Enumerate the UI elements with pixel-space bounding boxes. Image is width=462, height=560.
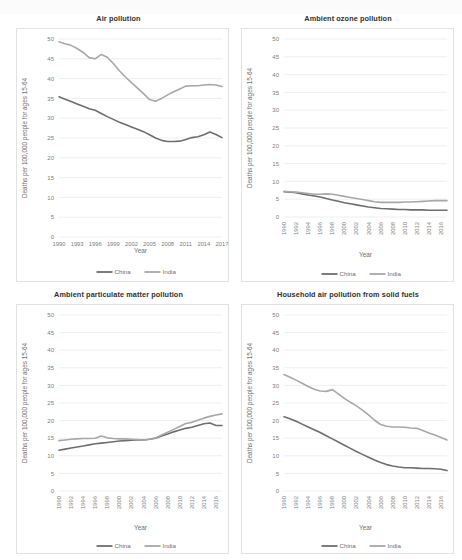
y-tick-label: 20 [272, 143, 279, 149]
series-line-india [284, 374, 447, 439]
x-axis-title: Year [134, 524, 148, 531]
chart-box-1: 05101520253035404550Deaths per 100,000 p… [241, 28, 454, 282]
y-tick-label: 35 [272, 90, 279, 96]
x-tick-label: 1994 [305, 221, 311, 235]
x-tick-label: 2002 [353, 222, 359, 235]
x-axis-title: Year [134, 247, 148, 254]
y-tick-label: 50 [47, 36, 54, 42]
x-tick-label: 2016 [213, 496, 219, 509]
chart-svg-2: 05101520253035404550Deaths per 100,000 p… [17, 305, 230, 555]
panel-household-air-pollution: Household air pollution from solid fuels… [237, 290, 459, 558]
legend-label-china: China [340, 542, 357, 549]
chart-box-0: 05101520253035404550Deaths per 100,000 p… [16, 28, 229, 282]
x-tick-label: 2012 [414, 222, 420, 235]
y-tick-label: 40 [272, 72, 279, 78]
chart-box-3: 05101520253035404550Deaths per 100,000 p… [241, 304, 454, 554]
y-tick-label: 15 [47, 175, 54, 181]
y-tick-label: 30 [272, 383, 279, 389]
y-tick-label: 25 [47, 400, 54, 406]
x-tick-label: 2000 [341, 496, 347, 509]
x-tick-label: 2014 [201, 495, 207, 509]
y-tick-label: 10 [272, 453, 279, 459]
y-tick-label: 5 [276, 196, 280, 202]
x-tick-label: 2004 [366, 221, 372, 235]
x-tick-label: 2008 [390, 222, 396, 235]
x-axis-title: Year [359, 251, 373, 258]
x-tick-label: 2014 [426, 221, 432, 235]
x-tick-label: 2010 [402, 496, 408, 509]
x-tick-label: 2008 [165, 496, 171, 509]
legend-label-china: China [115, 542, 132, 549]
y-tick-label: 35 [47, 365, 54, 371]
chart-svg-3: 05101520253035404550Deaths per 100,000 p… [242, 305, 455, 555]
chart-title-1: Ambient ozone pollution [237, 14, 459, 24]
y-tick-label: 0 [276, 488, 280, 494]
x-tick-label: 2016 [438, 222, 444, 235]
series-line-india [59, 42, 222, 101]
x-tick-label: 2000 [341, 222, 347, 235]
y-axis-title: Deaths per 100,000 people for ages 15-64 [21, 343, 29, 464]
x-tick-label: 2010 [177, 496, 183, 509]
y-tick-label: 45 [272, 330, 279, 336]
y-tick-label: 45 [47, 330, 54, 336]
y-tick-label: 40 [272, 347, 279, 353]
y-tick-label: 15 [47, 435, 54, 441]
y-tick-label: 5 [276, 471, 280, 477]
x-tick-label: 2008 [161, 241, 174, 247]
y-tick-label: 35 [47, 96, 54, 102]
y-tick-label: 40 [47, 347, 54, 353]
legend-label-india: India [388, 542, 402, 549]
x-tick-label: 1992 [293, 222, 299, 235]
y-axis-title: Deaths per 100,000 people for ages 15-64 [246, 343, 254, 464]
y-tick-label: 20 [47, 155, 54, 161]
y-tick-label: 45 [272, 54, 279, 60]
y-tick-label: 50 [272, 36, 279, 42]
chart-title-3: Household air pollution from solid fuels [237, 290, 459, 300]
x-tick-label: 2006 [378, 222, 384, 235]
legend-label-india: India [163, 268, 177, 275]
x-tick-label: 2017 [216, 241, 229, 247]
x-tick-label: 2012 [189, 496, 195, 509]
legend-label-china: China [115, 268, 132, 275]
x-tick-label: 1992 [68, 496, 74, 509]
y-axis-title: Deaths per 100,000 people for ages 15-64 [21, 78, 29, 199]
legend-label-india: India [163, 542, 177, 549]
x-tick-label: 2006 [153, 496, 159, 509]
x-tick-label: 2004 [141, 495, 147, 509]
x-tick-label: 2002 [128, 496, 134, 509]
panel-ambient-ozone-pollution: Ambient ozone pollution 0510152025303540… [237, 14, 459, 286]
x-tick-label: 1994 [80, 495, 86, 509]
x-tick-label: 1990 [53, 241, 66, 247]
y-tick-label: 30 [272, 107, 279, 113]
x-tick-label: 2008 [390, 496, 396, 509]
y-tick-label: 25 [47, 135, 54, 141]
chart-title-2: Ambient particulate matter pollution [6, 290, 231, 300]
x-tick-label: 1993 [71, 241, 84, 247]
x-tick-label: 1996 [92, 496, 98, 509]
series-line-china [59, 423, 222, 450]
chart-title-0: Air pollution [6, 14, 231, 24]
x-tick-label: 1998 [104, 496, 110, 509]
y-tick-label: 40 [47, 76, 54, 82]
series-line-china [59, 97, 222, 142]
x-tick-label: 1990 [281, 496, 287, 509]
legend-label-india: India [388, 270, 402, 277]
y-tick-label: 35 [272, 365, 279, 371]
x-tick-label: 1999 [107, 241, 120, 247]
y-tick-label: 15 [272, 435, 279, 441]
panel-air-pollution: Air pollution 05101520253035404550Deaths… [6, 14, 231, 286]
y-tick-label: 0 [51, 234, 55, 240]
chart-box-2: 05101520253035404550Deaths per 100,000 p… [16, 304, 229, 554]
x-tick-label: 1996 [317, 496, 323, 509]
chart-grid: Air pollution 05101520253035404550Deaths… [0, 0, 462, 560]
x-tick-label: 2004 [366, 495, 372, 509]
series-line-india [284, 191, 447, 202]
y-tick-label: 15 [272, 161, 279, 167]
y-tick-label: 50 [272, 312, 279, 318]
y-axis-title: Deaths per 100,000 people for ages 15-64 [246, 68, 254, 189]
series-line-india [59, 414, 222, 441]
y-tick-label: 10 [272, 179, 279, 185]
y-tick-label: 10 [47, 195, 54, 201]
chart-svg-1: 05101520253035404550Deaths per 100,000 p… [242, 29, 455, 283]
y-tick-label: 20 [272, 418, 279, 424]
